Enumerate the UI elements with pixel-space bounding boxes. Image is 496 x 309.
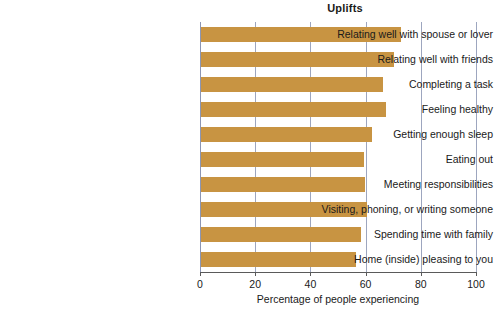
category-label: Relating well with spouse or lover — [300, 28, 496, 40]
category-label: Meeting responsibilities — [300, 178, 496, 190]
x-tick-40 — [310, 272, 311, 276]
category-label: Getting enough sleep — [300, 128, 496, 140]
x-axis-line — [200, 272, 476, 273]
x-tick-0 — [200, 272, 201, 276]
x-tick-label: 60 — [351, 278, 381, 290]
x-tick-label: 80 — [406, 278, 436, 290]
category-label: Spending time with family — [300, 228, 496, 240]
x-tick-label: 20 — [240, 278, 270, 290]
x-tick-label: 0 — [185, 278, 215, 290]
category-label: Visiting, phoning, or writing someone — [300, 203, 496, 215]
x-tick-20 — [255, 272, 256, 276]
category-label: Relating well with friends — [300, 53, 496, 65]
category-label: Feeling healthy — [300, 103, 496, 115]
category-label: Completing a task — [300, 78, 496, 90]
chart-title: Uplifts — [200, 2, 490, 14]
x-tick-label: 40 — [295, 278, 325, 290]
bar-chart: Uplifts Percentage of people experiencin… — [0, 0, 496, 309]
x-tick-80 — [421, 272, 422, 276]
category-label: Home (inside) pleasing to you — [300, 253, 496, 265]
x-tick-60 — [366, 272, 367, 276]
x-axis-title: Percentage of people experiencing — [200, 293, 476, 305]
x-tick-label: 100 — [461, 278, 491, 290]
category-label: Eating out — [300, 153, 496, 165]
x-tick-100 — [476, 272, 477, 276]
